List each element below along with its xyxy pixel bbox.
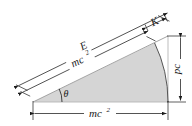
figure-canvas: E mc 2 K pc mc 2 θ <box>0 0 192 126</box>
rest-energy-base-exponent: 2 <box>107 106 111 114</box>
e-extension-left <box>16 85 28 91</box>
physics-figure: E mc 2 K pc mc 2 θ <box>0 0 192 126</box>
angle-theta-label-group: θ <box>64 88 69 99</box>
sector-fill <box>33 43 168 102</box>
momentum-term-label: pc <box>170 64 182 76</box>
momentum-term-label-group: pc <box>170 59 183 79</box>
angle-theta-label: θ <box>64 88 69 99</box>
mc2d-extension-right <box>147 37 156 42</box>
rest-energy-base-label: mc <box>89 107 102 119</box>
mc2d-extension-left <box>21 92 31 97</box>
rest-energy-base-label-group: mc 2 <box>84 106 116 120</box>
